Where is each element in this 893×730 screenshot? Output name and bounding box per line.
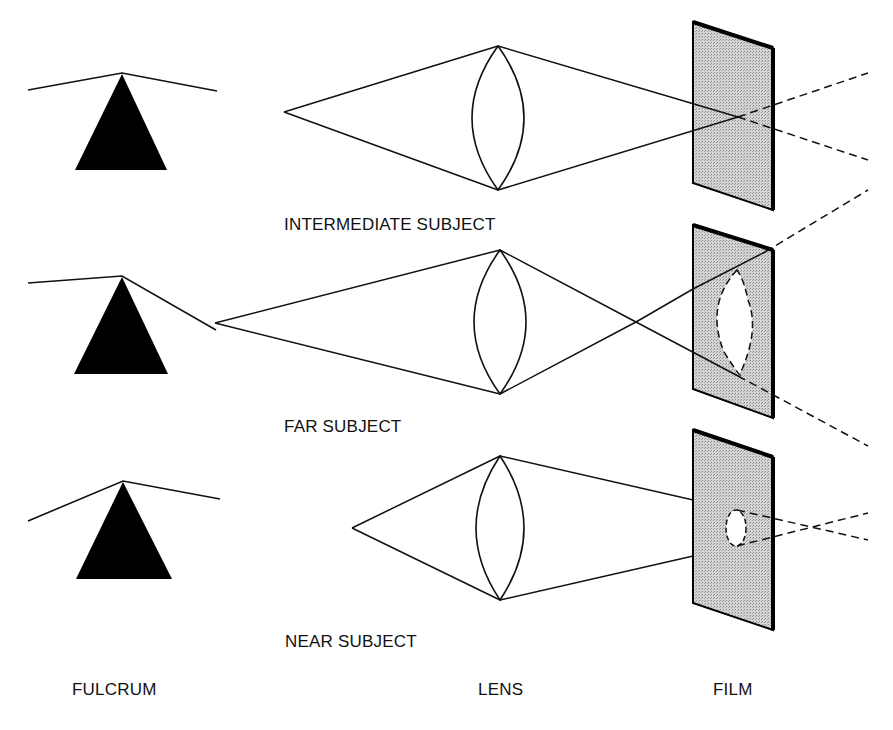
row-label-far: FAR SUBJECT (284, 417, 401, 437)
ray-lines-refracted (498, 46, 868, 190)
fulcrum-icon (28, 481, 220, 579)
film-plane (693, 430, 773, 630)
column-label-lens: LENS (478, 680, 523, 700)
row-near (28, 430, 868, 630)
row-label-intermediate: INTERMEDIATE SUBJECT (284, 215, 495, 235)
column-label-film: FILM (713, 680, 753, 700)
blur-circle (726, 510, 746, 546)
optics-diagram (0, 0, 893, 730)
fulcrum-icon (28, 276, 216, 374)
ray-lines (284, 46, 498, 190)
fulcrum-icon (28, 73, 217, 170)
row-label-near: NEAR SUBJECT (285, 632, 417, 652)
ray-lines (352, 456, 737, 600)
lens-icon (476, 456, 524, 600)
lens-icon (474, 250, 526, 394)
ray-lines (215, 250, 636, 394)
lens-icon (472, 46, 524, 190)
column-label-fulcrum: FULCRUM (72, 680, 157, 700)
row-intermediate (28, 22, 868, 210)
